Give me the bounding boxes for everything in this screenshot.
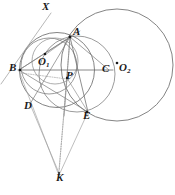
label-A: A [73,26,80,37]
label-O2-base: O [119,61,127,73]
label-E: E [83,110,90,121]
label-X: X [42,1,49,12]
label-O2-subscript: 2 [127,67,131,75]
label-K: K [56,172,63,183]
label-P: P [66,70,73,81]
point-marker-A [69,36,72,39]
label-B: B [9,62,16,73]
point-marker-O2 [116,62,119,65]
geometry-canvas [0,0,175,195]
circle-APCE [39,36,115,112]
label-O1-subscript: 1 [46,61,50,69]
point-marker-B [19,69,21,71]
label-O1: O1 [38,56,49,67]
geometry-figure: X A B C D E K P O1 O2 [0,0,175,195]
line-B-P-dotted [21,73,67,79]
label-O1-base: O [38,55,46,67]
label-O2: O2 [119,62,130,73]
label-C: C [102,63,109,74]
label-D: D [24,100,32,111]
line-B-K [19,71,58,173]
line-E-K [60,112,88,173]
lines-group [1,13,113,173]
